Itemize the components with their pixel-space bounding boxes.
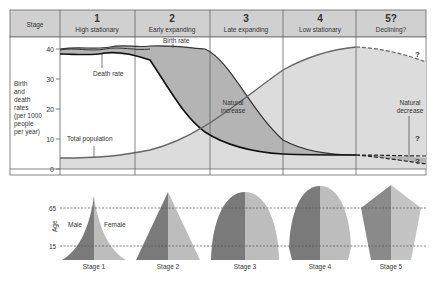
stage-2-name: Early expanding [149, 26, 196, 34]
pyramid-stage-2 [136, 192, 200, 260]
svg-text:and: and [14, 88, 25, 95]
stage-3-name: Late expanding [224, 26, 269, 34]
stage-5-number: 5? [385, 13, 397, 24]
age-axis-label: Age [51, 220, 59, 232]
demographic-transition-diagram: 0 10 20 30 40 Birth and death rates (per… [0, 0, 437, 282]
pyramid-stage-3 [211, 192, 279, 260]
question-mark-population: ? [415, 50, 420, 59]
total-population-label: Total population [67, 135, 113, 143]
svg-text:(per 1000: (per 1000 [14, 112, 42, 120]
stage-5-pyramid-label: Stage 5 [380, 263, 403, 271]
stage-header-label: Stage [27, 21, 44, 29]
y-tick-40: 40 [46, 46, 54, 53]
natural-decrease-label: Natural [400, 99, 422, 106]
stage-2-number: 2 [169, 13, 175, 24]
stage-1-number: 1 [94, 13, 100, 24]
natural-increase-label-2: increase [221, 107, 246, 114]
svg-text:Birth: Birth [14, 80, 28, 87]
header-row [10, 10, 426, 37]
stage-1-pyramid-label: Stage 1 [83, 263, 106, 271]
female-label: Female [104, 221, 126, 228]
pyramid-stage-5 [361, 185, 421, 260]
pyramid-stage-1 [62, 196, 126, 260]
y-tick-10: 10 [46, 136, 54, 143]
y-tick-20: 20 [46, 106, 54, 113]
male-label: Male [68, 221, 82, 228]
stage-3-pyramid-label: Stage 3 [234, 263, 257, 271]
natural-decrease-label-2: decrease [397, 107, 424, 114]
svg-text:people: people [14, 120, 34, 128]
age-15-label: 15 [49, 243, 57, 250]
y-tick-0: 0 [50, 166, 54, 173]
stage-5-name: Declining? [376, 26, 407, 34]
age-65-label: 65 [49, 205, 57, 212]
stage-3-number: 3 [243, 13, 249, 24]
birth-rate-label: Birth rate [163, 37, 190, 44]
stage-4-number: 4 [317, 13, 323, 24]
svg-text:rates: rates [14, 104, 29, 111]
death-rate-label: Death rate [93, 70, 124, 77]
natural-increase-label: Natural [223, 99, 245, 106]
stage-2-pyramid-label: Stage 2 [157, 263, 180, 271]
question-mark-death: ? [415, 157, 420, 166]
stage-4-name: Low stationary [299, 26, 342, 34]
y-tick-30: 30 [46, 76, 54, 83]
svg-text:per year): per year) [14, 128, 40, 136]
stage-4-pyramid-label: Stage 4 [309, 263, 332, 271]
question-mark-birth: ? [415, 134, 420, 143]
stage-1-name: High stationary [75, 26, 119, 34]
svg-text:death: death [14, 96, 31, 103]
pyramid-stage-4 [289, 186, 351, 260]
